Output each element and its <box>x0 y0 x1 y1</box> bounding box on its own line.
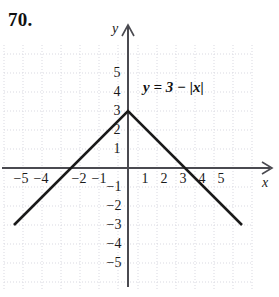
y-tick-label-3: 3 <box>110 104 124 118</box>
y-tick-label-neg5: −5 <box>104 256 124 270</box>
x-tick-label-3: 3 <box>176 172 190 186</box>
x-tick-label-5: 5 <box>214 172 228 186</box>
y-tick-label-neg4: −4 <box>104 237 124 251</box>
y-tick-label-neg1: −1 <box>104 180 124 194</box>
x-tick-label-neg4: −4 <box>32 172 50 186</box>
x-tick-label-neg5: −5 <box>12 172 30 186</box>
y-axis-label: y <box>112 22 118 36</box>
equation-label: y = 3 − |x| <box>143 80 204 95</box>
y-tick-label-neg2: −2 <box>104 199 124 213</box>
x-tick-label-neg2: −2 <box>70 172 88 186</box>
x-axis-label: x <box>262 176 268 190</box>
y-tick-label-4: 4 <box>110 85 124 99</box>
y-tick-label-neg3: −3 <box>104 218 124 232</box>
x-tick-label-2: 2 <box>157 172 171 186</box>
y-tick-label-5: 5 <box>110 66 124 80</box>
y-tick-label-1: 1 <box>110 142 124 156</box>
x-tick-label-1: 1 <box>138 172 152 186</box>
figure-problem-70: 70. <box>0 0 279 297</box>
coordinate-plane <box>0 0 279 297</box>
x-tick-label-4: 4 <box>195 172 209 186</box>
y-tick-label-2: 2 <box>110 123 124 137</box>
